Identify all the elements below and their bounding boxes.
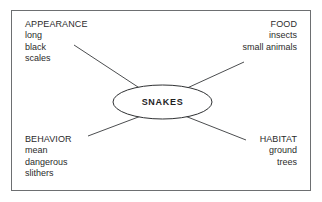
center-node-ellipse	[113, 85, 212, 119]
branch-cluster-habitat: HABITAT ground trees	[260, 134, 297, 168]
branch-heading-food: FOOD	[242, 19, 297, 30]
branch-cluster-behavior: BEHAVIOR mean dangerous slithers	[25, 134, 72, 180]
branch-detail-food-1: insects	[242, 30, 297, 41]
branch-detail-behavior-1: mean	[25, 145, 72, 156]
concept-web-diagram: SNAKES APPEARANCE long black scales FOOD…	[0, 0, 322, 202]
branch-detail-habitat-2: trees	[260, 157, 297, 168]
branch-detail-behavior-2: dangerous	[25, 157, 72, 168]
branch-cluster-appearance: APPEARANCE long black scales	[25, 19, 88, 65]
branch-line-habitat	[185, 116, 246, 140]
branch-detail-appearance-2: black	[25, 42, 88, 53]
branch-line-food	[185, 62, 244, 89]
branch-heading-appearance: APPEARANCE	[25, 19, 88, 30]
branch-detail-appearance-3: scales	[25, 53, 88, 64]
branch-detail-food-2: small animals	[242, 42, 297, 53]
branch-line-behavior	[88, 116, 141, 136]
branch-detail-appearance-1: long	[25, 30, 88, 41]
branch-detail-behavior-3: slithers	[25, 168, 72, 179]
branch-heading-behavior: BEHAVIOR	[25, 134, 72, 145]
branch-detail-habitat-1: ground	[260, 145, 297, 156]
branch-heading-habitat: HABITAT	[260, 134, 297, 145]
branch-cluster-food: FOOD insects small animals	[242, 19, 297, 53]
